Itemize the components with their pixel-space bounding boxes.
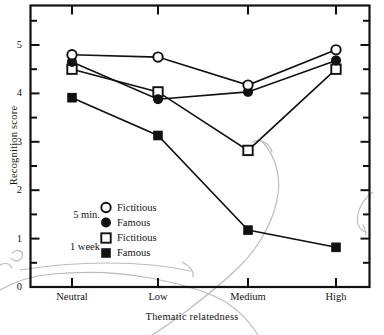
x-axis-ticks xyxy=(72,278,336,287)
legend-open-circle-icon xyxy=(101,203,110,212)
recognition-score-line-chart xyxy=(0,0,384,335)
figure-container: 0 1 2 3 4 5 Neutral Low Medium High Reco… xyxy=(0,0,384,335)
legend-open-square-icon xyxy=(101,233,110,242)
legend-entry-5min-famous: Famous xyxy=(117,217,150,228)
x-tick-label-high: High xyxy=(296,291,376,302)
x-tick-label-neutral: Neutral xyxy=(32,291,112,302)
x-tick-label-medium: Medium xyxy=(208,291,288,302)
series-markers-5min-famous xyxy=(67,55,341,104)
x-axis-title: Thematic relatedness xyxy=(0,311,384,322)
y-axis-ticks-right xyxy=(361,21,370,263)
legend-markers xyxy=(101,203,111,258)
legend-filled-square-icon xyxy=(101,248,111,258)
pencil-annotation-marks xyxy=(0,141,373,335)
series-markers-1week-famous xyxy=(67,93,341,252)
legend-group-label-5min: 5 min. xyxy=(44,209,100,220)
y-tick-label-1: 1 xyxy=(2,233,22,244)
x-tick-label-low: Low xyxy=(118,291,198,302)
legend-filled-circle-icon xyxy=(101,218,111,228)
y-axis-title: Recognition score xyxy=(8,81,19,211)
legend-group-label-1week: 1 week xyxy=(44,241,100,252)
legend-entry-5min-fictitious: Fictitious xyxy=(117,202,157,213)
series-markers-5min-fictitious xyxy=(67,45,340,90)
series-line-1week-famous xyxy=(72,98,336,248)
series-line-1week-fictitious xyxy=(72,69,336,150)
legend-entry-1week-famous: Famous xyxy=(117,247,150,258)
legend-entry-1week-fictitious: Fictitious xyxy=(117,232,157,243)
y-tick-label-5: 5 xyxy=(2,39,22,50)
figure-caption xyxy=(18,327,378,335)
x-axis-ticks-top xyxy=(72,6,336,15)
series-lines xyxy=(72,50,336,248)
y-axis-ticks xyxy=(31,21,40,287)
y-tick-label-0: 0 xyxy=(2,281,22,292)
